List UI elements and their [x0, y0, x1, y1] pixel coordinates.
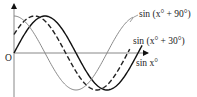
label-sin-x-plus-30: sin (x° + 30°) — [133, 36, 185, 47]
label-sin-x-plus-90: sin (x° + 90°) — [139, 9, 191, 20]
origin-label: O — [5, 53, 12, 63]
sine-phase-chart: O sin (x° + 90°) sin (x° + 30°) sin x° — [0, 0, 197, 97]
label-sin-x: sin x° — [136, 58, 158, 68]
